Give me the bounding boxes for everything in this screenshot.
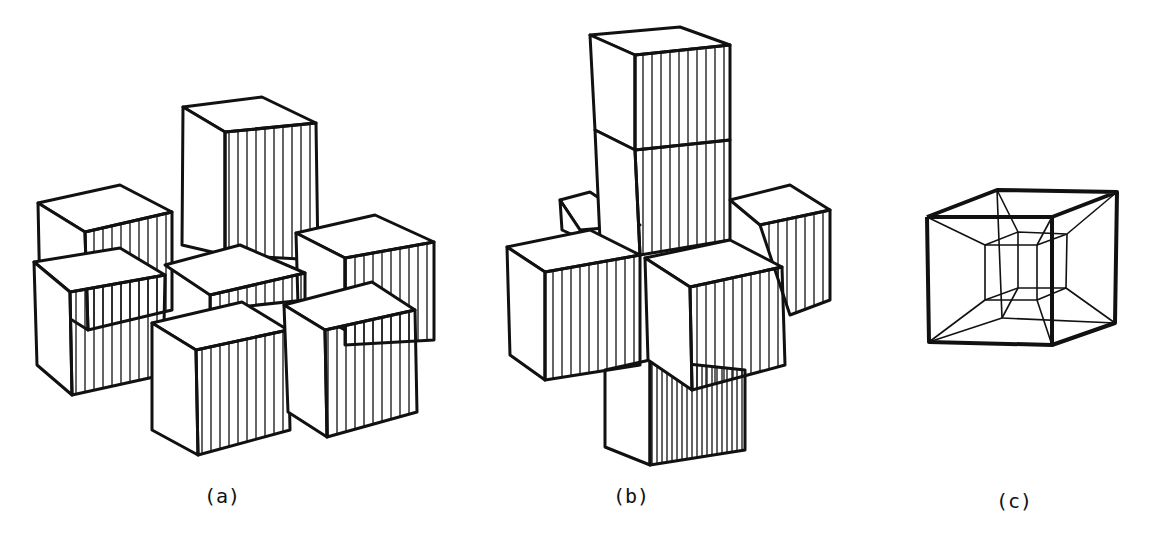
figure-a-cube-cluster — [34, 97, 434, 455]
figure-b-cube-cross — [507, 27, 830, 465]
cube-front-right — [284, 282, 417, 437]
cube-front-left — [34, 248, 165, 395]
diagram-canvas — [0, 0, 1151, 543]
figure-a-label: (a) — [204, 484, 240, 508]
figure-c-tesseract — [927, 190, 1117, 345]
figure-b-label: (b) — [613, 484, 649, 508]
figure-c-label: (c) — [996, 489, 1032, 513]
cube-front-center — [152, 302, 290, 455]
